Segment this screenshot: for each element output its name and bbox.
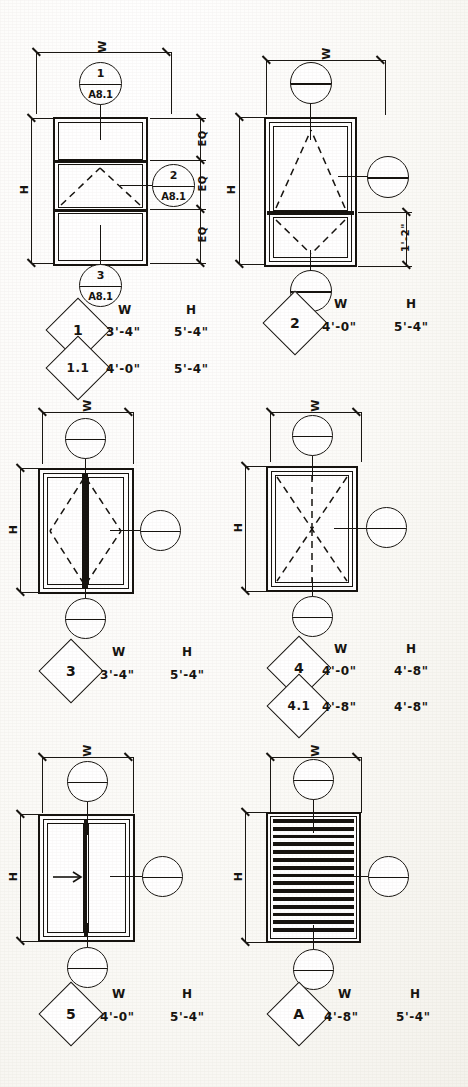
window-type-1-elevation[interactable]: W H EQ EQ EQ	[0, 0, 234, 390]
type-2-height-value: 5'-4"	[394, 320, 429, 334]
type-1-callout-right[interactable]: 2 A8.1	[152, 164, 195, 207]
type-1-height-value: 5'-4"	[174, 325, 209, 339]
type-1-callout-top[interactable]: 1 A8.1	[79, 62, 122, 105]
type-3-tag-label: 3	[48, 648, 94, 694]
callout-sheet-number: A8.1	[80, 90, 121, 100]
type-1-width-value: 3'-4"	[106, 325, 141, 339]
type-5-callout-top-leader	[87, 797, 88, 835]
bubble-divider	[294, 780, 333, 782]
callout-sheet-number: A8.1	[80, 292, 121, 302]
type-5-w-header: W	[112, 987, 125, 1001]
type-a-width-value: 4'-8"	[324, 1010, 359, 1024]
type-3-callout-bottom[interactable]	[65, 598, 106, 639]
bubble-divider	[66, 619, 105, 621]
callout-detail-number: 1	[80, 68, 121, 79]
type-5-callout-right[interactable]	[142, 856, 183, 897]
louver-slat	[273, 920, 354, 924]
type-2-tag-label: 2	[272, 300, 318, 346]
type-5-slide-direction-arrow	[0, 725, 234, 1087]
type-1-eq-label-top: EQ	[197, 131, 208, 147]
type-2-width-value: 4'-0"	[322, 320, 357, 334]
type-a-height-value: 5'-4"	[396, 1010, 431, 1024]
louver-slat	[273, 889, 354, 893]
type-2-callout-top-leader	[310, 98, 311, 140]
window-schedule-sheet: W H EQ EQ EQ	[0, 0, 468, 1087]
type-1-eq-ext-a	[150, 118, 206, 119]
type-1-1-width-value: 4'-0"	[106, 362, 141, 376]
bubble-divider	[143, 877, 182, 879]
type-a-height-dimension-line	[245, 812, 246, 943]
bubble-divider	[367, 528, 406, 530]
type-3-w-header: W	[112, 645, 125, 659]
type-3-callout-top[interactable]	[65, 418, 106, 459]
type-2-w-header: W	[334, 297, 347, 311]
type-a-h-header: H	[410, 987, 420, 1001]
type-a-callout-top[interactable]	[293, 759, 334, 800]
type-4-callout-bottom[interactable]	[292, 596, 333, 637]
callout-detail-number: 2	[153, 170, 194, 181]
type-2-detail-dimension-value: 1'-2"	[400, 210, 411, 266]
type-2-callout-top[interactable]	[290, 62, 332, 104]
louver-slat	[273, 897, 354, 901]
type-4-1-height-value: 4'-8"	[394, 700, 429, 714]
bubble-divider	[369, 877, 408, 879]
louver-slat	[273, 881, 354, 885]
window-type-4-elevation[interactable]: W H	[234, 390, 468, 725]
type-5-height-value: 5'-4"	[170, 1010, 205, 1024]
type-1-callout-top-leader	[100, 100, 101, 140]
type-5-callout-top[interactable]	[67, 761, 108, 802]
type-4-callout-right[interactable]	[366, 507, 407, 548]
type-1-callout-bottom[interactable]: 3 A8.1	[79, 264, 122, 307]
louver-slat	[273, 913, 354, 917]
type-1-eq-label-bot: EQ	[197, 227, 208, 243]
louver-slat	[273, 842, 354, 846]
type-4-h-header: H	[406, 642, 416, 656]
type-a-height-label: H	[232, 870, 245, 884]
type-a-tag-label: A	[276, 991, 322, 1037]
louver-slat	[273, 850, 354, 854]
type-2-detail-ext-bot	[358, 266, 412, 267]
window-type-2-elevation[interactable]: W H	[234, 0, 468, 390]
louver-type-a-elevation[interactable]: W H A W H 4'-8"	[234, 725, 468, 1087]
bubble-divider	[293, 436, 332, 438]
type-5-callout-bottom[interactable]	[67, 947, 108, 988]
type-4-w-header: W	[334, 642, 347, 656]
window-type-3-elevation[interactable]: W H	[0, 390, 234, 725]
type-1-w-header: W	[118, 303, 131, 317]
type-3-h-header: H	[182, 645, 192, 659]
type-1-h-header: H	[186, 303, 196, 317]
type-3-callout-right[interactable]	[140, 510, 181, 551]
bubble-divider	[68, 782, 107, 784]
type-3-width-value: 3'-4"	[100, 668, 135, 682]
callout-sheet-number: A8.1	[153, 192, 194, 202]
type-4-callout-top[interactable]	[292, 415, 333, 456]
type-1-eq-ext-d	[150, 263, 206, 264]
type-4-1-tag-label: 4.1	[276, 683, 322, 729]
type-4-width-value: 4'-0"	[322, 664, 357, 678]
type-2-callout-right[interactable]	[367, 156, 409, 198]
bubble-divider	[294, 970, 333, 972]
type-1-1-tag-label: 1.1	[55, 345, 101, 391]
type-a-callout-right[interactable]	[368, 856, 409, 897]
bubble-divider	[368, 177, 408, 179]
type-2-h-header: H	[406, 297, 416, 311]
type-a-w-header: W	[338, 987, 351, 1001]
type-a-width-label: W	[309, 744, 322, 758]
louver-slat	[273, 835, 354, 839]
type-1-eq-label-mid: EQ	[197, 176, 208, 192]
window-type-5-elevation[interactable]: W H	[0, 725, 234, 1087]
louver-slat	[273, 866, 354, 870]
type-5-tag-label: 5	[48, 991, 94, 1037]
type-a-callout-top-leader	[313, 795, 314, 833]
type-1-1-height-value: 5'-4"	[174, 362, 209, 376]
bubble-divider	[291, 83, 331, 85]
louver-slat	[273, 905, 354, 909]
type-4-1-width-value: 4'-8"	[322, 700, 357, 714]
type-3-height-value: 5'-4"	[170, 668, 205, 682]
bubble-divider	[68, 968, 107, 970]
louver-slat	[273, 858, 354, 862]
bubble-divider	[66, 439, 105, 441]
type-1-eq-ext-b	[150, 160, 206, 161]
bubble-divider	[153, 186, 194, 188]
type-5-h-header: H	[182, 987, 192, 1001]
